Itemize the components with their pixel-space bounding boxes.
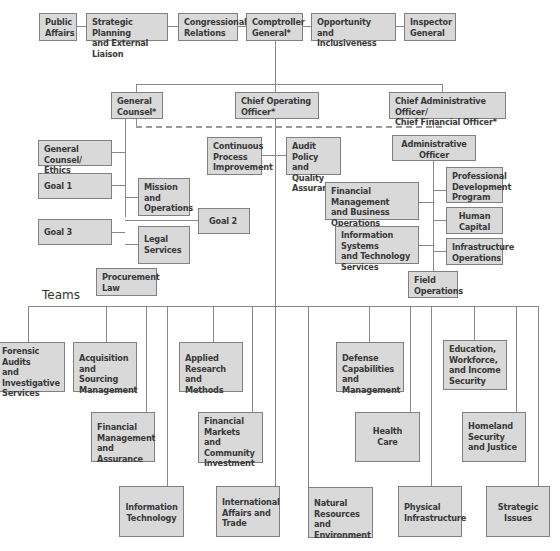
box-label: Financial Management and Business Operat…	[331, 186, 413, 228]
box-label: Opportunity and Inclusiveness	[317, 17, 390, 49]
box-label: Defense Capabilities and Management	[342, 353, 398, 395]
legal-services-box: Legal Services	[138, 226, 190, 264]
connector	[252, 306, 253, 413]
box-label: Congressional Relations	[184, 17, 232, 38]
connector	[308, 306, 309, 488]
cao-cfo-box: Chief Administrative Officer/ Chief Fina…	[389, 92, 506, 119]
goal-1-box: Goal 1	[38, 173, 112, 199]
box-label: Comptroller General*	[252, 17, 297, 38]
box-label: Mission and Operations	[144, 182, 184, 214]
team-box: Applied Research and Methods	[179, 342, 243, 392]
connector	[28, 306, 29, 343]
box-label: Acquisition and Sourcing Management	[79, 353, 131, 395]
team-box: Education, Workforce, and Income Securit…	[443, 340, 507, 390]
box-label: Chief Operating Officer*	[241, 96, 313, 117]
comptroller-general-box: Comptroller General*	[246, 13, 303, 41]
goal-3-box: Goal 3	[38, 219, 112, 245]
audit-policy-box: Audit Policy and Quality Assurance	[286, 137, 341, 175]
connector	[431, 306, 432, 487]
connector	[136, 84, 137, 92]
box-label: Field Operations	[414, 275, 452, 296]
congressional-relations-box: Congressional Relations	[178, 13, 238, 41]
connector	[395, 26, 404, 27]
connector	[433, 160, 434, 272]
mission-operations-box: Mission and Operations	[138, 178, 190, 216]
box-label: Applied Research and Methods	[185, 353, 237, 395]
connector	[136, 84, 443, 85]
connector	[111, 152, 125, 153]
box-label: Legal Services	[144, 234, 184, 255]
connector	[275, 118, 276, 306]
box-label: International Affairs and Trade	[222, 497, 274, 529]
chief-operating-officer-box: Chief Operating Officer*	[235, 92, 319, 119]
box-label: Chief Administrative Officer/ Chief Fina…	[395, 96, 500, 128]
team-box: Defense Capabilities and Management	[336, 342, 404, 392]
box-label: Strategic Issues	[492, 502, 544, 523]
team-box: Strategic Issues	[486, 486, 550, 537]
strategic-planning-box: Strategic Planning and External Liaison	[86, 13, 168, 41]
connector	[418, 202, 433, 203]
financial-management-business-box: Financial Management and Business Operat…	[325, 182, 419, 220]
professional-development-box: Professional Development Program	[446, 167, 503, 203]
inspector-general-box: Inspector General	[404, 13, 456, 41]
teams-heading: Teams	[42, 288, 80, 302]
goal-2-box: Goal 2	[198, 208, 250, 234]
human-capital-box: Human Capital	[446, 207, 503, 234]
infrastructure-operations-box: Infrastructure Operations	[446, 238, 503, 265]
box-label: Infrastructure Operations	[452, 242, 497, 263]
box-label: Public Affairs	[45, 17, 71, 38]
box-label: Administrative Officer	[398, 139, 470, 160]
box-label: Goal 3	[44, 227, 106, 238]
connector	[433, 190, 446, 191]
box-label: Information Systems and Technology Servi…	[341, 230, 413, 272]
connector	[275, 306, 276, 487]
team-box: Financial Markets and Community Investme…	[198, 412, 263, 463]
connector	[106, 306, 107, 343]
connector	[516, 306, 517, 413]
box-label: Human Capital	[452, 211, 497, 232]
connector	[167, 306, 168, 487]
team-box: Acquisition and Sourcing Management	[73, 342, 137, 392]
team-box: Natural Resources and Environment	[308, 487, 373, 538]
box-label: Inspector General	[410, 17, 450, 38]
connector	[146, 306, 147, 413]
team-box: Forensic Audits and Investigative Servic…	[0, 342, 65, 392]
opportunity-inclusiveness-box: Opportunity and Inclusiveness	[311, 13, 396, 41]
box-label: Natural Resources and Environment	[314, 498, 367, 540]
connector	[433, 220, 446, 221]
team-box: Homeland Security and Justice	[462, 412, 526, 462]
box-label: Education, Workforce, and Income Securit…	[449, 344, 501, 386]
general-counsel-box: General Counsel*	[111, 92, 163, 119]
team-box: International Affairs and Trade	[216, 486, 280, 537]
connector	[111, 185, 125, 186]
box-label: Forensic Audits and Investigative Servic…	[2, 346, 59, 399]
box-label: Professional Development Program	[452, 171, 497, 203]
box-label: General Counsel*	[117, 96, 157, 117]
box-label: Strategic Planning and External Liaison	[92, 17, 162, 59]
box-label: Financial Markets and Community Investme…	[204, 416, 257, 469]
field-operations-box: Field Operations	[408, 271, 458, 298]
box-label: Homeland Security and Justice	[468, 421, 520, 453]
connector	[538, 306, 539, 487]
procurement-law-box: Procurement Law	[96, 268, 157, 296]
box-label: Goal 1	[44, 181, 106, 192]
connector	[474, 306, 475, 343]
public-affairs-box: Public Affairs	[39, 13, 77, 41]
team-box: Information Technology	[119, 486, 184, 537]
continuous-process-box: Continuous Process Improvement	[207, 137, 262, 175]
administrative-officer-box: Administrative Officer	[392, 135, 476, 161]
connector	[125, 244, 138, 245]
box-label: Continuous Process Improvement	[213, 141, 256, 173]
connector	[168, 26, 178, 27]
box-label: Procurement Law	[102, 272, 151, 293]
connector	[410, 306, 411, 413]
connector	[28, 306, 538, 307]
team-box: Physical Infrastructure	[398, 486, 462, 537]
connector	[442, 84, 443, 92]
connector	[213, 306, 214, 343]
connector	[418, 245, 433, 246]
box-label: Information Technology	[125, 502, 178, 523]
team-box: Health Care	[355, 412, 420, 462]
gc-ethics-box: General Counsel/ Ethics Counselor	[38, 140, 112, 166]
connector	[369, 306, 370, 343]
